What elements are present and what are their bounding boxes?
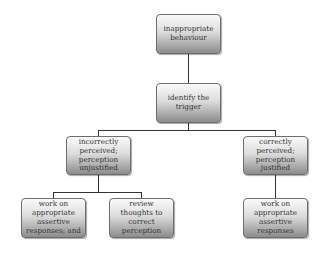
node-incorrectly-perceived: incorrectly perceived; perception unjust… <box>66 136 131 175</box>
node-inappropriate-behaviour: inappropriate behaviour <box>156 14 221 54</box>
node-review-thoughts: review thoughts to correct perception <box>109 198 174 238</box>
connector-incorrect-branch <box>53 192 142 193</box>
connector-trigger-branch <box>98 130 276 131</box>
connector-incorrect-down <box>98 174 99 192</box>
connector-correct-assertive <box>275 174 276 199</box>
node-assertive-responses: work on appropriate assertive responses <box>243 198 308 238</box>
node-correctly-perceived: correctly perceived; perception justifie… <box>243 136 308 175</box>
node-identify-trigger: identify the trigger <box>156 83 221 123</box>
node-assertive-responses-and: work on appropriate assertive responses;… <box>21 198 86 238</box>
connector-root-trigger <box>188 54 189 85</box>
